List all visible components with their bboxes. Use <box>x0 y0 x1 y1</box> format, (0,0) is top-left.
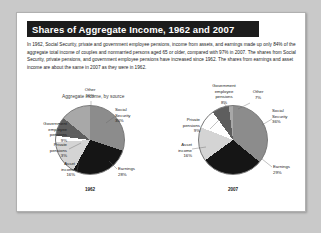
caption-1962: 1962 <box>70 187 110 192</box>
label-social-security-2007: Social Security 36% <box>272 108 306 125</box>
infographic-card: Shares of Aggregate Income, 1962 and 200… <box>16 12 306 212</box>
pie-chart-2007: Social Security 36% Earnings 29% Asset i… <box>162 99 306 209</box>
charts-container: Social Security 30% Earnings 28% Asset i… <box>17 99 306 209</box>
pie-chart-1962: Social Security 30% Earnings 28% Asset i… <box>17 99 162 209</box>
label-asset-income-1962: Asset income 16% <box>45 161 75 178</box>
label-other-1962: Other 16% <box>73 87 107 98</box>
label-earnings-1962: Earnings 28% <box>118 166 150 177</box>
label-private-pensions-2007: Private pensions 9% <box>170 117 200 134</box>
label-earnings-2007: Earnings 29% <box>273 164 305 175</box>
page-title: Shares of Aggregate Income, 1962 and 200… <box>32 24 234 35</box>
page-background: Shares of Aggregate Income, 1962 and 200… <box>0 0 321 233</box>
label-government-pensions-1962: Government employee pensions 9% <box>25 121 67 143</box>
label-social-security-1962: Social Security 30% <box>115 107 149 124</box>
label-private-pensions-1962: Private pensions 3% <box>37 142 67 159</box>
caption-2007: 2007 <box>213 187 253 192</box>
body-paragraph: In 1962, Social Security, private and go… <box>27 41 297 71</box>
label-government-pensions-2007: Government employee pensions 8% <box>203 83 245 105</box>
title-banner: Shares of Aggregate Income, 1962 and 200… <box>27 21 259 37</box>
label-other-2007: Other 7% <box>246 89 270 100</box>
label-asset-income-2007: Asset income 16% <box>164 142 192 159</box>
